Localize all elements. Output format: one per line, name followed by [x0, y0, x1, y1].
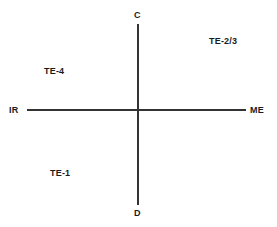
- quadrant-label-upper-left: TE-4: [44, 66, 64, 76]
- quadrant-label-upper-right: TE-2/3: [209, 36, 237, 46]
- quadrant-label-lower-left: TE-1: [50, 168, 70, 178]
- vertical-axis-line: [137, 24, 139, 205]
- axis-label-bottom: D: [134, 208, 141, 218]
- horizontal-axis-line: [27, 109, 246, 111]
- axis-label-top: C: [134, 10, 141, 20]
- axis-diagram: C D IR ME TE-2/3 TE-4 TE-1: [0, 0, 277, 227]
- axis-label-left: IR: [9, 105, 18, 115]
- axis-label-right: ME: [250, 105, 264, 115]
